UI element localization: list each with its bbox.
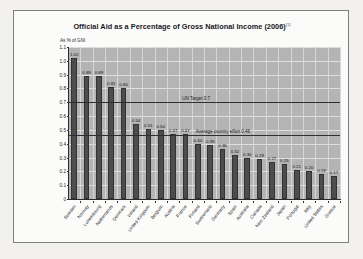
- x-axis-tick-mark: [253, 201, 254, 203]
- bar-value-label: 0.20: [305, 165, 314, 170]
- y-axis-tick-mark: [67, 75, 69, 76]
- x-axis-tick-mark: [117, 201, 118, 203]
- bar: [121, 88, 127, 199]
- x-axis-tick-mark: [303, 201, 304, 203]
- bar: [84, 76, 90, 199]
- x-axis-tick-label: Austria: [163, 204, 176, 218]
- y-axis-tick-label: 1.1: [48, 45, 66, 50]
- bar: [158, 130, 164, 199]
- x-axis-tick-mark: [179, 201, 180, 203]
- x-axis-tick-mark: [241, 201, 242, 203]
- y-axis-tick-mark: [67, 171, 69, 172]
- scanned-page: Official Aid as a Percentage of Gross Na…: [0, 0, 363, 259]
- y-axis-tick-mark: [67, 88, 69, 89]
- bar: [146, 129, 152, 199]
- y-axis-tick-label: 0.9: [48, 72, 66, 77]
- y-axis-tick-label: 0.7: [48, 100, 66, 105]
- x-axis-tick-label: Japan: [276, 204, 288, 217]
- x-axis-tick-mark: [266, 201, 267, 203]
- gridline-vertical: [105, 47, 106, 199]
- x-axis-tick-label: Italy: [303, 204, 312, 214]
- gridline-vertical: [80, 47, 81, 199]
- bar-value-label: 0.21: [292, 164, 301, 169]
- gridline-vertical: [328, 47, 329, 199]
- bar: [96, 76, 102, 199]
- x-axis-tick-mark: [278, 201, 279, 203]
- bar-value-label: 0.36: [218, 143, 227, 148]
- bar-value-label: 0.29: [255, 153, 264, 158]
- gridline-vertical: [303, 47, 304, 199]
- bar: [220, 149, 226, 199]
- y-axis-title: As % of GNI: [60, 38, 85, 43]
- bar-value-label: 0.47: [181, 128, 190, 133]
- y-axis-tick-mark: [67, 185, 69, 186]
- reference-line: [68, 102, 340, 103]
- bar-value-label: 0.80: [119, 82, 128, 87]
- bar-value-label: 0.30: [243, 152, 252, 157]
- bar-value-label: 0.51: [144, 123, 153, 128]
- y-axis-tick-label: 0: [48, 197, 66, 202]
- gridline-vertical: [204, 47, 205, 199]
- gridline-vertical: [192, 47, 193, 199]
- x-axis-tick-mark: [340, 201, 341, 203]
- gridline-vertical: [142, 47, 143, 199]
- bar: [319, 174, 325, 199]
- x-axis-tick-mark: [315, 201, 316, 203]
- x-axis-tick-label: Belgium: [149, 204, 163, 220]
- bar-value-label: 1.02: [70, 52, 79, 57]
- bar-value-label: 0.25: [280, 158, 289, 163]
- y-axis-tick-mark: [67, 61, 69, 62]
- chart-title-footnote: [1]: [286, 22, 291, 27]
- bar: [108, 87, 114, 199]
- gridline-vertical: [253, 47, 254, 199]
- bar: [183, 134, 189, 199]
- bar: [282, 164, 288, 199]
- x-axis-tick-mark: [80, 201, 81, 203]
- y-axis-ticks: 1.11.00.90.80.70.60.50.40.30.20.10: [46, 47, 66, 199]
- gridline-vertical: [93, 47, 94, 199]
- x-axis-tick-mark: [93, 201, 94, 203]
- bar-value-label: 0.18: [317, 168, 326, 173]
- gridline-vertical: [130, 47, 131, 199]
- bar-value-label: 0.81: [107, 81, 116, 86]
- bar: [294, 170, 300, 199]
- bar-value-label: 0.54: [132, 118, 141, 123]
- chart-title-text: Official Aid as a Percentage of Gross Na…: [73, 22, 285, 31]
- x-axis-tick-mark: [167, 201, 168, 203]
- y-axis-tick-label: 0.4: [48, 141, 66, 146]
- x-axis-tick-mark: [192, 201, 193, 203]
- x-axis-tick-mark: [229, 201, 230, 203]
- bar-value-label: 0.40: [194, 138, 203, 143]
- gridline-vertical: [155, 47, 156, 199]
- y-axis-line: [68, 47, 69, 200]
- x-axis-tick-mark: [204, 201, 205, 203]
- x-axis-tick-mark: [130, 201, 131, 203]
- gridline-vertical: [216, 47, 217, 199]
- reference-line-label: UN Target 0.7: [182, 96, 210, 101]
- bar: [306, 171, 312, 199]
- bar: [269, 162, 275, 199]
- gridline-vertical: [179, 47, 180, 199]
- bar: [170, 134, 176, 199]
- y-axis-tick-label: 0.3: [48, 155, 66, 160]
- x-axis-tick-mark: [155, 201, 156, 203]
- bar-value-label: 0.32: [231, 149, 240, 154]
- plot-area: 1.020.890.890.810.800.540.510.500.470.47…: [68, 47, 341, 199]
- y-axis-tick-label: 0.5: [48, 127, 66, 132]
- gridline-vertical: [340, 47, 341, 199]
- bar: [257, 159, 263, 199]
- bar-value-label: 0.89: [82, 70, 91, 75]
- x-axis-tick-mark: [142, 201, 143, 203]
- bar: [331, 176, 337, 199]
- x-axis-tick-mark: [105, 201, 106, 203]
- x-axis-tick-mark: [291, 201, 292, 203]
- bar-value-label: 0.39: [206, 139, 215, 144]
- bar: [195, 144, 201, 199]
- y-axis-tick-mark: [67, 102, 69, 103]
- bar-value-label: 0.50: [156, 124, 165, 129]
- x-axis-tick-label: Sweden: [63, 204, 77, 220]
- y-axis-tick-mark: [67, 199, 69, 200]
- y-axis-tick-label: 0.2: [48, 169, 66, 174]
- y-axis-tick-label: 0.1: [48, 183, 66, 188]
- y-axis-tick-mark: [67, 158, 69, 159]
